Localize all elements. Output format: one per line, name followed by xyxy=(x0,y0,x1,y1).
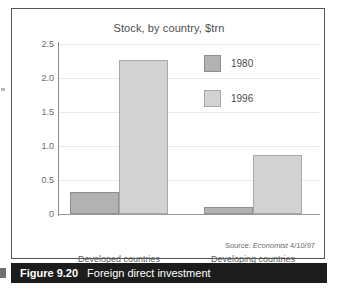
y-tick-label: 2.0 xyxy=(14,73,54,83)
gridline xyxy=(59,44,319,45)
chart-title: Stock, by country, $trn xyxy=(12,22,326,34)
y-tick-label: 0 xyxy=(14,209,54,219)
source-date: 4/10/97 xyxy=(290,241,315,250)
page-scan-edge xyxy=(0,0,11,291)
bar-developing-1996 xyxy=(253,155,302,214)
page-edge-mark-bottom xyxy=(0,268,6,278)
chart-panel: Stock, by country, $trn 2.5 2.0 1.5 1.0 … xyxy=(11,8,325,259)
gridline xyxy=(59,146,319,147)
source-note: Source: Economist 4/10/97 xyxy=(225,241,315,250)
figure-caption-title: Foreign direct investment xyxy=(87,267,211,279)
legend-swatch-icon xyxy=(204,55,221,72)
y-tick-label: 1.0 xyxy=(14,141,54,151)
y-tick-label: 2.5 xyxy=(14,39,54,49)
y-axis-tick-labels: 2.5 2.0 1.5 1.0 0.5 0 xyxy=(12,44,54,214)
x-axis-line xyxy=(58,214,320,215)
chart-legend: 1980 1996 xyxy=(204,55,253,125)
source-publication: Economist xyxy=(253,241,288,250)
legend-label: 1996 xyxy=(231,93,253,104)
figure-caption-bar: Figure 9.20 Foreign direct investment xyxy=(11,263,327,283)
legend-item-1980: 1980 xyxy=(204,55,253,72)
legend-label: 1980 xyxy=(231,58,253,69)
gridline xyxy=(59,78,319,79)
y-tick-label: 1.5 xyxy=(14,107,54,117)
legend-swatch-icon xyxy=(204,90,221,107)
figure-caption-number: Figure 9.20 xyxy=(20,267,78,279)
bar-developing-1980 xyxy=(204,207,253,214)
legend-item-1996: 1996 xyxy=(204,90,253,107)
plot-area: Developed countries Developing countries xyxy=(59,44,319,214)
bar-developed-1980 xyxy=(70,192,119,214)
gridline xyxy=(59,112,319,113)
page-edge-mark-top xyxy=(1,88,5,91)
source-prefix: Source: xyxy=(225,241,251,250)
y-tick-label: 0.5 xyxy=(14,175,54,185)
bar-developed-1996 xyxy=(119,60,168,214)
figure-container: Stock, by country, $trn 2.5 2.0 1.5 1.0 … xyxy=(11,8,327,283)
